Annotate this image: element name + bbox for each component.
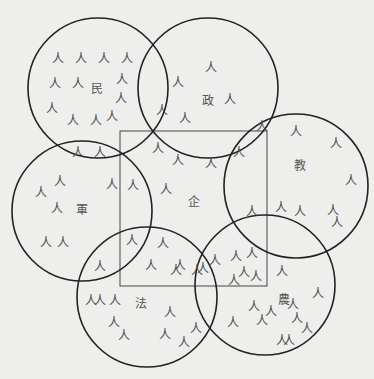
person-icon: 人 bbox=[172, 154, 184, 168]
sector-label-qi: 企 bbox=[188, 194, 200, 209]
sector-label-fa: 法 bbox=[135, 297, 147, 311]
person-icon: 人 bbox=[118, 329, 130, 343]
sector-label-jun: 軍 bbox=[76, 203, 88, 217]
person-icon: 人 bbox=[75, 52, 87, 66]
person-icon: 人 bbox=[164, 306, 176, 320]
person-icon: 人 bbox=[294, 205, 306, 219]
person-icon: 人 bbox=[256, 314, 268, 328]
sector-label-zheng: 政 bbox=[202, 94, 214, 108]
person-icon: 人 bbox=[152, 142, 164, 156]
person-icon: 人 bbox=[109, 294, 121, 308]
person-icon: 人 bbox=[98, 52, 110, 66]
sector-label-min: 民 bbox=[91, 82, 103, 96]
person-icon: 人 bbox=[224, 93, 236, 107]
person-icon: 人 bbox=[230, 250, 242, 264]
person-icon: 人 bbox=[170, 264, 182, 278]
person-icon: 人 bbox=[121, 52, 133, 66]
person-icon: 人 bbox=[179, 112, 191, 126]
person-icon: 人 bbox=[106, 178, 118, 192]
person-icon: 人 bbox=[190, 322, 202, 336]
person-icon: 人 bbox=[52, 52, 64, 66]
diagram-canvas: 民政教軍法農企人人人人人人人人人人人人人人人人人人人人人人人人人人人人人人人人人… bbox=[0, 0, 374, 379]
person-icon: 人 bbox=[233, 146, 245, 160]
person-icon: 人 bbox=[228, 274, 240, 288]
person-icon: 人 bbox=[35, 186, 47, 200]
person-icon: 人 bbox=[250, 270, 262, 284]
person-icon: 人 bbox=[178, 336, 190, 350]
sector-circle-zheng bbox=[138, 18, 278, 158]
person-icon: 人 bbox=[90, 114, 102, 128]
person-icon: 人 bbox=[246, 247, 258, 261]
person-icon: 人 bbox=[72, 77, 84, 91]
person-icon: 人 bbox=[115, 92, 127, 106]
person-icon: 人 bbox=[156, 104, 168, 118]
person-icon: 人 bbox=[276, 265, 288, 279]
person-icon: 人 bbox=[94, 146, 106, 160]
person-icon: 人 bbox=[291, 312, 303, 326]
person-icon: 人 bbox=[40, 236, 52, 250]
person-icon: 人 bbox=[57, 236, 69, 250]
person-icon: 人 bbox=[331, 216, 343, 230]
person-icon: 人 bbox=[330, 137, 342, 151]
society-sectors-diagram: 民政教軍法農企人人人人人人人人人人人人人人人人人人人人人人人人人人人人人人人人人… bbox=[0, 0, 374, 379]
person-icon: 人 bbox=[54, 175, 66, 189]
person-icon: 人 bbox=[290, 125, 302, 139]
person-icon: 人 bbox=[126, 234, 138, 248]
sector-label-jiao: 教 bbox=[294, 158, 306, 173]
person-icon: 人 bbox=[287, 298, 299, 312]
person-icon: 人 bbox=[345, 174, 357, 188]
person-icon: 人 bbox=[172, 76, 184, 90]
person-icon: 人 bbox=[145, 259, 157, 273]
person-icon: 人 bbox=[159, 328, 171, 342]
person-icon: 人 bbox=[205, 157, 217, 171]
person-icon: 人 bbox=[46, 102, 58, 116]
person-icon: 人 bbox=[312, 287, 324, 301]
person-icon: 人 bbox=[197, 262, 209, 276]
person-icon: 人 bbox=[106, 110, 118, 124]
person-icon: 人 bbox=[127, 179, 139, 193]
person-icon: 人 bbox=[51, 202, 63, 216]
person-icon: 人 bbox=[94, 260, 106, 274]
person-icon: 人 bbox=[157, 237, 169, 251]
person-icon: 人 bbox=[227, 316, 239, 330]
person-icon: 人 bbox=[283, 334, 295, 348]
person-icon: 人 bbox=[72, 146, 84, 160]
person-icon: 人 bbox=[160, 183, 172, 197]
person-icon: 人 bbox=[94, 294, 106, 308]
person-icon: 人 bbox=[246, 205, 258, 219]
person-icon: 人 bbox=[49, 77, 61, 91]
person-icon: 人 bbox=[275, 201, 287, 215]
person-icon: 人 bbox=[108, 316, 120, 330]
person-icon: 人 bbox=[248, 300, 260, 314]
person-icon: 人 bbox=[116, 73, 128, 87]
person-icon: 人 bbox=[256, 120, 268, 134]
person-icon: 人 bbox=[209, 254, 221, 268]
person-icon: 人 bbox=[205, 61, 217, 75]
person-icon: 人 bbox=[67, 114, 79, 128]
